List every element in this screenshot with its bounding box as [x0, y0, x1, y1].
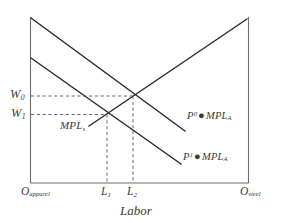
origin-label-steel-sub: steel	[248, 190, 260, 197]
curve-label-demand-low-p: P	[183, 151, 190, 162]
diagram-canvas: W0 W1 L1 L2 Oapparel Osteel MPLs P0●MPLA…	[0, 0, 281, 223]
wage-label-w1: W1	[11, 107, 26, 120]
multiplication-dot-icon: ●	[197, 109, 206, 121]
quantity-label-l1: L1	[101, 186, 111, 199]
origin-label-steel: Osteel	[240, 186, 261, 198]
curve-label-supply-sub: s	[83, 125, 86, 132]
curve-label-demand-high-mpl: MPL	[206, 110, 228, 121]
wage-label-w0-base: W	[10, 87, 21, 101]
quantity-label-l2-sub: 2	[133, 191, 137, 199]
origin-label-apparel: Oapparel	[21, 186, 50, 198]
multiplication-dot-icon-2: ●	[193, 150, 202, 162]
wage-label-w1-base: W	[11, 106, 22, 120]
curve-label-demand-high-p: P	[187, 110, 194, 121]
origin-label-apparel-sub: apparel	[29, 190, 49, 197]
curve-label-supply-base: MPL	[60, 119, 83, 131]
x-axis-title: Labor	[120, 204, 152, 217]
quantity-label-l1-sub: 1	[107, 191, 111, 199]
curve-label-demand-high-sub: A	[228, 114, 232, 121]
curve-label-demand-high: P0●MPLA	[187, 110, 232, 122]
wage-label-w1-sub: 1	[22, 112, 26, 121]
wage-label-w0-sub: 0	[21, 93, 25, 102]
wage-label-w0: W0	[10, 88, 25, 101]
curve-label-demand-low-mpl: MPL	[202, 151, 224, 162]
curve-label-demand-low-sub: A	[224, 155, 228, 162]
quantity-label-l2: L2	[127, 186, 137, 199]
curve-label-supply: MPLs	[60, 120, 85, 132]
curve-label-demand-low: P1●MPLA	[183, 151, 228, 163]
